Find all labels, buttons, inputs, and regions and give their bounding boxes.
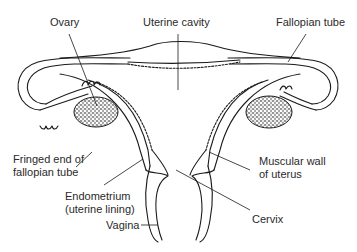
label-muscular-wall-line1: Muscular wall: [259, 155, 326, 168]
label-uterine-cavity: Uterine cavity: [143, 16, 210, 29]
label-fallopian-tube: Fallopian tube: [276, 16, 345, 29]
right-ovary: [246, 96, 292, 128]
label-muscular-wall-line2: of uterus: [259, 168, 302, 181]
left-ovary: [74, 97, 118, 127]
label-vagina: Vagina: [106, 219, 139, 232]
anatomy-illustration: [0, 0, 357, 252]
label-fringed-end-line1: Fringed end of: [13, 153, 84, 166]
label-fringed-end-line2: fallopian tube: [13, 166, 78, 179]
label-ovary: Ovary: [50, 16, 79, 29]
label-endometrium-line2: (uterine lining): [65, 203, 135, 216]
label-cervix: Cervix: [252, 213, 283, 226]
reproductive-system-diagram: Ovary Uterine cavity Fallopian tube Frin…: [0, 0, 357, 252]
label-endometrium-line1: Endometrium: [65, 190, 130, 203]
